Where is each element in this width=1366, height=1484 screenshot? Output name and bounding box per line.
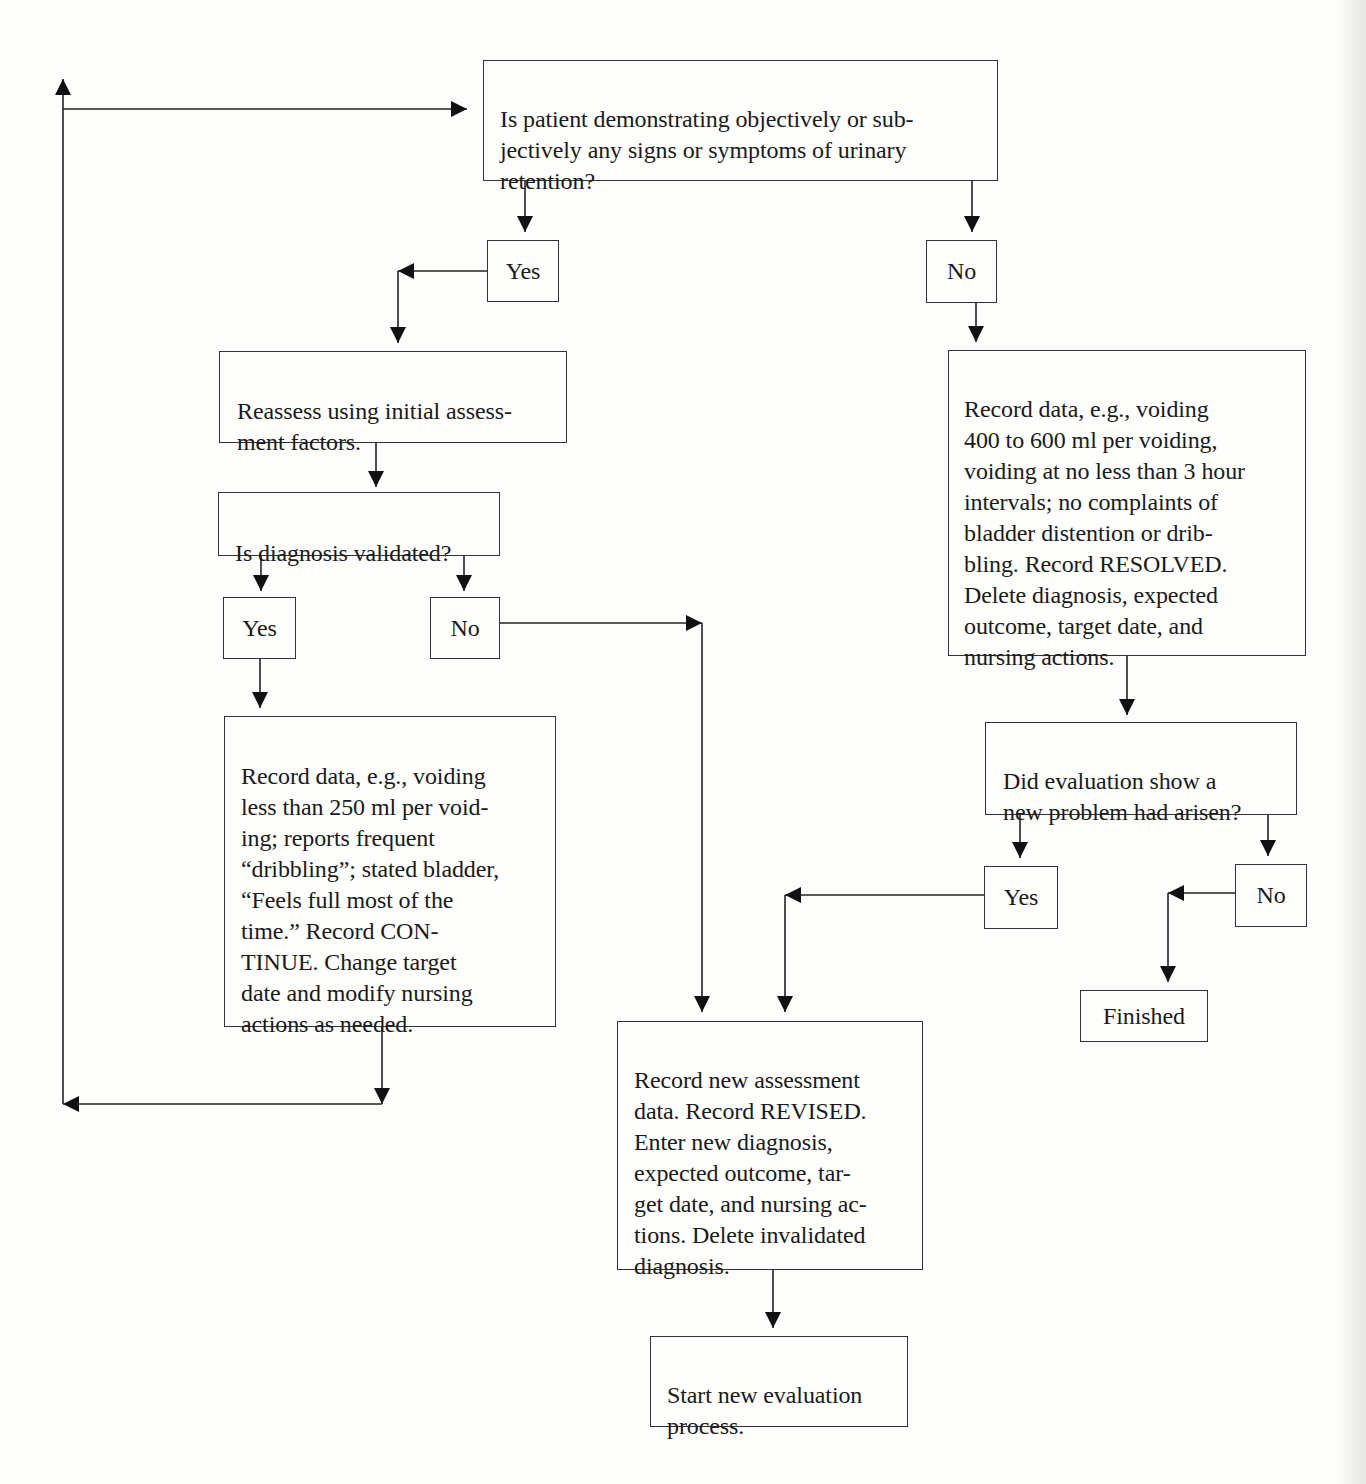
node-text: Record new assessment data. Record REVIS… <box>634 1065 908 1282</box>
page-edge-shadow <box>1336 0 1366 1484</box>
node-text: Is patient demonstrating objectively or … <box>500 104 983 197</box>
node-record-revised: Record new assessment data. Record REVIS… <box>617 1021 923 1270</box>
node-yes-2: Yes <box>223 597 296 659</box>
node-text: Record data, e.g., voiding 400 to 600 ml… <box>964 394 1291 673</box>
node-no-3: No <box>1235 864 1307 927</box>
node-text: Start new evaluation process. <box>667 1380 893 1442</box>
node-start-question: Is patient demonstrating objectively or … <box>483 60 998 181</box>
node-text: Did evaluation show a new problem had ar… <box>1003 766 1282 828</box>
node-record-continue: Record data, e.g., voiding less than 250… <box>224 716 556 1027</box>
node-text: No <box>1256 880 1285 911</box>
node-no-2: No <box>430 597 500 659</box>
node-text: No <box>947 256 976 287</box>
node-start-new: Start new evaluation process. <box>650 1336 908 1427</box>
node-text: Yes <box>242 613 277 644</box>
node-text: Record data, e.g., voiding less than 250… <box>241 761 541 1040</box>
node-yes-3: Yes <box>984 866 1058 929</box>
node-text: No <box>450 613 479 644</box>
node-no-1: No <box>926 240 997 303</box>
node-text: Finished <box>1103 1001 1185 1032</box>
node-reassess: Reassess using initial assess- ment fact… <box>219 351 567 443</box>
node-text: Yes <box>506 256 541 287</box>
node-text: Reassess using initial assess- ment fact… <box>237 396 552 458</box>
node-text: Yes <box>1004 882 1039 913</box>
node-finished: Finished <box>1080 990 1208 1042</box>
node-record-resolved: Record data, e.g., voiding 400 to 600 ml… <box>948 350 1306 656</box>
node-diagnosis-validated: Is diagnosis validated? <box>218 492 500 556</box>
node-text: Is diagnosis validated? <box>235 538 485 569</box>
node-new-problem: Did evaluation show a new problem had ar… <box>985 722 1297 815</box>
node-yes-1: Yes <box>487 240 559 302</box>
